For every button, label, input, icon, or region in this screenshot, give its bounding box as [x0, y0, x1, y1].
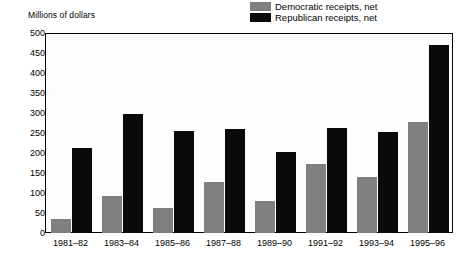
bar-democratic: [255, 201, 275, 233]
bar-chart-figure: Millions of dollars Democratic receipts,…: [0, 0, 460, 265]
bar-democratic: [153, 208, 173, 233]
x-tick-label: 1981–82: [53, 238, 88, 249]
chart-legend: Democratic receipts, net Republican rece…: [250, 1, 458, 23]
legend-item-democratic: Democratic receipts, net: [250, 1, 458, 12]
y-tick-label: 450: [21, 49, 45, 58]
bars-layer: [45, 33, 453, 233]
legend-label-republican: Republican receipts, net: [275, 13, 377, 23]
y-tick-label: 0: [21, 229, 45, 238]
bar-republican: [429, 45, 449, 233]
bar-republican: [72, 148, 92, 233]
x-tick-label: 1991–92: [308, 238, 343, 249]
x-axis-tick-labels: 1981–821983–841985–861987–881989–901991–…: [45, 238, 453, 252]
bar-democratic: [408, 122, 428, 233]
y-tick-label: 350: [21, 89, 45, 98]
black-swatch-icon: [250, 13, 271, 22]
y-axis-caption: Millions of dollars: [28, 10, 95, 20]
bar-group: [204, 33, 245, 233]
bar-democratic: [51, 219, 71, 233]
x-tick-label: 1989–90: [257, 238, 292, 249]
bar-group: [408, 33, 449, 233]
y-tick-label: 200: [21, 149, 45, 158]
legend-label-democratic: Democratic receipts, net: [275, 2, 377, 12]
x-tick-label: 1987–88: [206, 238, 241, 249]
bar-democratic: [102, 196, 122, 233]
x-tick-label: 1993–94: [359, 238, 394, 249]
y-tick-label: 400: [21, 69, 45, 78]
bar-republican: [276, 152, 296, 233]
bar-democratic: [357, 177, 377, 233]
bar-group: [102, 33, 143, 233]
bar-democratic: [204, 182, 224, 233]
y-tick-label: 500: [21, 29, 45, 38]
x-tick-label: 1983–84: [104, 238, 139, 249]
bar-republican: [225, 129, 245, 233]
legend-item-republican: Republican receipts, net: [250, 12, 458, 23]
x-tick-label: 1985–86: [155, 238, 190, 249]
y-tick-label: 300: [21, 109, 45, 118]
y-tick-label: 100: [21, 189, 45, 198]
y-axis-tick-labels: 050100150200250300350400450500: [14, 33, 45, 233]
y-tick-label: 150: [21, 169, 45, 178]
bar-group: [255, 33, 296, 233]
bar-republican: [174, 131, 194, 233]
bar-republican: [123, 114, 143, 233]
x-tick-label: 1995–96: [410, 238, 445, 249]
bar-group: [306, 33, 347, 233]
y-tick-label: 50: [21, 209, 45, 218]
bar-democratic: [306, 164, 326, 233]
bar-group: [153, 33, 194, 233]
y-tick-label: 250: [21, 129, 45, 138]
bar-republican: [378, 132, 398, 233]
bar-group: [357, 33, 398, 233]
gray-swatch-icon: [250, 2, 271, 11]
bar-republican: [327, 128, 347, 233]
bar-group: [51, 33, 92, 233]
